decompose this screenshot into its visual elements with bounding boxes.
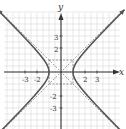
y-tick-label: 2: [54, 46, 58, 54]
y-axis-label: y: [57, 2, 64, 12]
x-tick-label: -3: [22, 76, 29, 84]
y-tick-label: 3: [54, 34, 58, 42]
y-tick-label: -3: [50, 105, 57, 113]
hyperbola-graph: y x -3 -2 2 3 3 2 -2 -3: [0, 0, 126, 129]
x-axis-label: x: [119, 67, 124, 77]
x-tick-label: 3: [95, 76, 99, 84]
x-tick-label: -2: [34, 76, 41, 84]
x-tick-label: 2: [83, 76, 87, 84]
y-tick-label: -2: [50, 93, 57, 101]
chart-svg: y x -3 -2 2 3 3 2 -2 -3: [0, 0, 126, 129]
